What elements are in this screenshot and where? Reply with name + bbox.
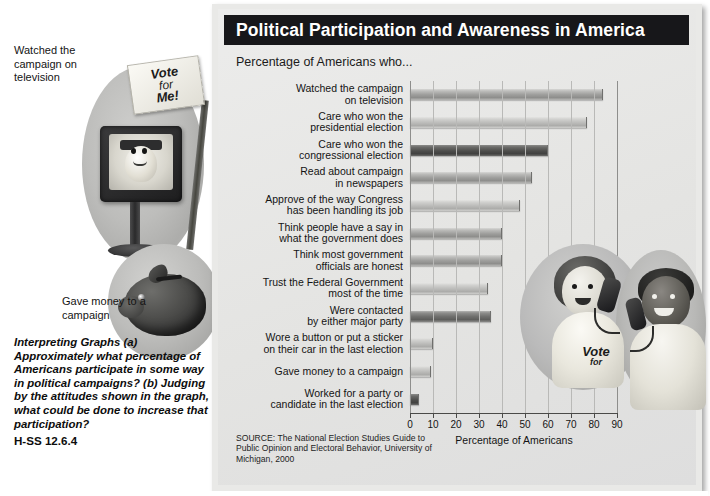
bar-category-label-line: on television — [296, 95, 403, 107]
bar-row: Think people have a say inwhat the gover… — [410, 219, 618, 247]
bar-category-label: Read about campaignin newspapers — [300, 166, 403, 189]
x-tick-label-0: 0 — [407, 419, 413, 430]
bar-category-label-line: Gave money to a campaign — [275, 366, 403, 378]
photo-phone-callers: Vote for — [520, 244, 706, 414]
bar-category-label: Care who won thecongressional election — [299, 139, 403, 162]
standard-code: H-SS 12.6.4 — [14, 434, 77, 447]
bar-category-label: Worked for a party orcandidate in the la… — [270, 388, 403, 411]
bar-row: Care who won thecongressional election — [410, 136, 618, 164]
bar — [410, 200, 520, 211]
bar-category-label-line: by either major party — [307, 316, 403, 328]
bar — [410, 394, 419, 405]
caller-eye-left — [572, 284, 577, 289]
bar-category-label-line: in newspapers — [300, 178, 403, 190]
x-tick-label-60: 60 — [542, 419, 553, 430]
chart-subtitle: Percentage of Americans who... — [236, 55, 412, 69]
x-axis-label: Percentage of Americans — [410, 434, 618, 446]
bar — [410, 172, 532, 183]
bar-category-label-line: candidate in the last election — [270, 399, 403, 411]
gridline-10 — [433, 81, 434, 413]
bar — [410, 117, 587, 128]
caller-eye-right — [588, 284, 593, 289]
interpreting-graphs-question: Interpreting Graphs (a) Approximately wh… — [14, 336, 210, 431]
puppet-eye-right — [142, 148, 147, 154]
gridline-40 — [502, 81, 503, 413]
bar-category-label-line: on their car in the last election — [264, 344, 404, 356]
tshirt-line-1: Vote — [568, 346, 624, 357]
bar-category-label: Trust the Federal Governmentmost of the … — [263, 277, 403, 300]
television-stand — [130, 202, 140, 248]
page-bottom-strip — [0, 491, 708, 496]
gridline-30 — [479, 81, 480, 413]
bar-row: Approve of the way Congresshas been hand… — [410, 192, 618, 220]
tshirt-slogan: Vote for — [568, 346, 624, 368]
television-set — [100, 126, 182, 202]
bar-category-label: Think people have a say inwhat the gover… — [278, 222, 403, 245]
bar-row: Watched the campaignon television — [410, 81, 618, 109]
caller-head — [642, 276, 690, 328]
x-tick-label-20: 20 — [450, 419, 461, 430]
gridline-0 — [410, 81, 411, 413]
x-tick-10 — [433, 413, 434, 418]
bar-category-label: Care who won thepresidential election — [310, 111, 403, 134]
bar-category-label-line: most of the time — [263, 288, 403, 300]
bar — [410, 89, 603, 100]
bar-category-label-line: presidential election — [310, 122, 403, 134]
bar — [410, 338, 433, 349]
x-tick-0 — [410, 413, 411, 418]
bar-category-label: Were contactedby either major party — [307, 305, 403, 328]
bar-category-label: Approve of the way Congresshas been hand… — [265, 194, 403, 217]
puppet-eye-left — [131, 148, 136, 154]
bar-category-label: Think most governmentofficials are hones… — [293, 249, 403, 272]
chart-title: Political Participation and Awareness in… — [236, 20, 645, 41]
bar-row: Read about campaignin newspapers — [410, 164, 618, 192]
bar-category-label: Wore a button or put a stickeron their c… — [264, 332, 404, 355]
bar-category-label-line: congressional election — [299, 150, 403, 162]
tshirt-line-2: for — [568, 357, 624, 368]
gridline-20 — [456, 81, 457, 413]
bar — [410, 283, 488, 294]
x-tick-label-80: 80 — [588, 419, 599, 430]
x-tick-label-10: 10 — [427, 419, 438, 430]
sign-line-3: Me! — [156, 89, 180, 104]
bar-category-label-line: has been handling its job — [265, 205, 403, 217]
x-tick-label-40: 40 — [496, 419, 507, 430]
bar-category-label: Watched the campaignon television — [296, 83, 403, 106]
television-screen — [109, 134, 173, 190]
x-tick-30 — [479, 413, 480, 418]
bar-row: Care who won thepresidential election — [410, 109, 618, 137]
annotation-gave-money: Gave money to a campaign — [62, 295, 172, 322]
x-tick-label-50: 50 — [519, 419, 530, 430]
chart-source: SOURCE: The National Election Studies Gu… — [236, 433, 441, 464]
caller-woman: Vote for — [538, 254, 638, 390]
bar-category-label: Gave money to a campaign — [275, 366, 403, 378]
x-tick-40 — [502, 413, 503, 418]
x-tick-20 — [456, 413, 457, 418]
bar-category-label-line: officials are honest — [293, 261, 403, 273]
x-tick-label-70: 70 — [565, 419, 576, 430]
bar — [410, 366, 431, 377]
chart-title-bar: Political Participation and Awareness in… — [224, 15, 689, 45]
caller-eye-right — [670, 294, 675, 299]
x-tick-label-30: 30 — [473, 419, 484, 430]
caller-eye-left — [652, 294, 657, 299]
bar-category-label-line: what the government does — [278, 233, 403, 245]
vote-for-me-sign: Vote for Me! — [127, 55, 205, 115]
caller-man — [624, 268, 710, 410]
x-tick-label-90: 90 — [611, 419, 622, 430]
